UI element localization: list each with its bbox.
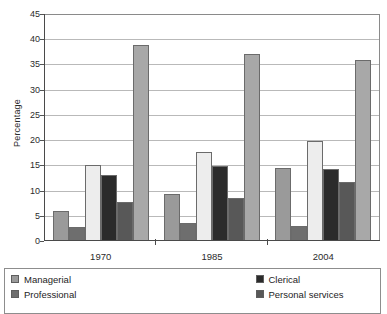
y-tick-label: 30 xyxy=(18,85,40,95)
legend-swatch-icon xyxy=(11,275,19,283)
y-tick-label: 15 xyxy=(18,160,40,170)
y-tick-label: 35 xyxy=(18,59,40,69)
bar xyxy=(164,194,180,240)
bar-group: 2004 xyxy=(268,14,379,240)
bar xyxy=(244,54,260,240)
legend-item[interactable]: Personal services xyxy=(196,287,381,301)
bar xyxy=(339,182,355,240)
y-tick-label: 0 xyxy=(18,236,40,246)
bar xyxy=(196,152,212,240)
bar-group: 1970 xyxy=(45,14,156,240)
plot-right-border xyxy=(379,14,380,241)
bar xyxy=(355,60,371,240)
legend-item[interactable]: Clerical xyxy=(196,272,381,286)
bar xyxy=(323,169,339,240)
legend-items: ManagerialClericalProfessionalPersonal s… xyxy=(11,272,380,302)
bar xyxy=(101,175,117,240)
legend-item-label: Clerical xyxy=(269,274,301,285)
bar xyxy=(117,202,133,240)
bar xyxy=(85,165,101,240)
x-tick-label: 1970 xyxy=(45,251,156,262)
legend-item-label: Personal services xyxy=(269,289,344,300)
legend-swatch-icon xyxy=(256,275,264,283)
bar xyxy=(53,211,69,240)
bar-groups: 197019852004 xyxy=(45,14,379,240)
legend-item-label: Professional xyxy=(24,289,76,300)
chart-legend: ManagerialClericalProfessionalPersonal s… xyxy=(4,268,381,314)
y-tick-mark xyxy=(40,241,44,242)
bar xyxy=(180,223,196,240)
legend-swatch-icon xyxy=(11,290,19,298)
y-tick-label: 5 xyxy=(18,211,40,221)
y-axis-tick-labels: 454035302520151050 xyxy=(16,0,40,266)
plot-area: Percentage 454035302520151050 1970198520… xyxy=(0,0,387,266)
bar xyxy=(212,166,228,240)
bar xyxy=(228,198,244,240)
y-tick-label: 40 xyxy=(18,34,40,44)
legend-item-label: Managerial xyxy=(24,274,71,285)
bar xyxy=(133,45,149,240)
x-tick-label: 2004 xyxy=(268,251,379,262)
bar xyxy=(307,141,323,240)
x-tick-label: 1985 xyxy=(156,251,267,262)
y-tick-label: 45 xyxy=(18,9,40,19)
legend-swatch-icon xyxy=(256,290,264,298)
bar-group: 1985 xyxy=(156,14,267,240)
y-tick-label: 10 xyxy=(18,186,40,196)
x-axis-line xyxy=(44,240,380,241)
bar xyxy=(69,227,85,240)
axes: 197019852004 xyxy=(44,14,380,241)
y-tick-label: 20 xyxy=(18,135,40,145)
bar xyxy=(291,226,307,240)
legend-item[interactable]: Managerial xyxy=(11,272,196,286)
legend-item[interactable]: Professional xyxy=(11,287,196,301)
y-tick-label: 25 xyxy=(18,110,40,120)
bar xyxy=(275,168,291,240)
